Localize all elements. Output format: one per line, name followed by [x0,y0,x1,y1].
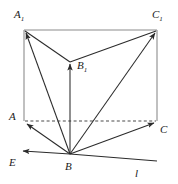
label-A1: A1 [14,9,24,23]
segment-B-l [70,154,157,161]
label-E: E [9,157,16,171]
label-C: C [160,124,167,138]
ray-B-A [27,124,70,154]
label-C1: C1 [152,9,163,23]
ray-B-C [70,123,154,154]
geometry-figure: A1 C1 B1 A C E B l [0,0,178,184]
label-B1: B1 [77,60,87,74]
label-l: l [135,168,138,182]
ray-B-A1 [26,33,70,154]
ray-B-E [23,151,70,154]
label-B: B [65,161,72,175]
edge-B1-A1 [25,31,70,62]
edge-B1-C1 [70,31,156,62]
ray-B-C1 [70,33,155,154]
label-A: A [9,111,16,125]
geometry-diagram-svg [0,0,178,184]
